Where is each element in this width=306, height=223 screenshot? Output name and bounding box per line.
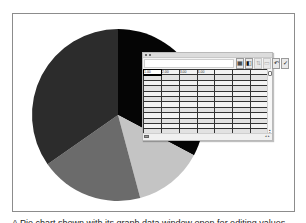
vertical-scroll-thumb[interactable] <box>268 71 272 76</box>
cell-style-icon[interactable]: ▭ <box>263 58 271 69</box>
close-window-button[interactable] <box>145 54 147 56</box>
cell-entry-field[interactable] <box>144 59 234 68</box>
graph-data-window: ▦◧⇅▭↶✓ 1.002.003.004.00 ▴▾ ◂ ▸ <box>142 52 273 141</box>
horizontal-scroll-thumb[interactable] <box>144 135 149 138</box>
minimize-window-button[interactable] <box>149 54 151 56</box>
vertical-scrollbar[interactable]: ▴▾ <box>267 69 272 135</box>
revert-icon[interactable]: ↶ <box>272 58 280 69</box>
transpose-row-column-icon[interactable]: ◧ <box>245 58 253 69</box>
horizontal-scrollbar[interactable]: ◂ ▸ <box>143 133 272 140</box>
switch-xy-icon[interactable]: ⇅ <box>254 58 262 69</box>
import-data-icon[interactable]: ▦ <box>236 58 244 69</box>
apply-icon[interactable]: ✓ <box>281 58 289 69</box>
graph-data-toolbar: ▦◧⇅▭↶✓ <box>236 58 289 69</box>
data-grid: 1.002.003.004.00 <box>143 69 269 135</box>
horizontal-scroll-arrows[interactable]: ◂ ▸ <box>265 134 270 139</box>
figure-caption: A Pie chart shown with its graph data wi… <box>12 215 302 223</box>
